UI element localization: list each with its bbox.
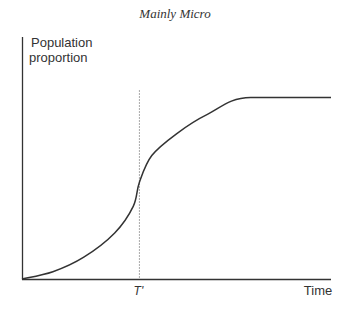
population-curve — [22, 98, 331, 280]
chart-title: Mainly Micro — [138, 6, 211, 21]
t-prime-label: T' — [134, 284, 144, 298]
y-axis-label-line-1: Population — [31, 35, 92, 50]
y-axis-label-line-2: proportion — [29, 50, 88, 65]
chart: Mainly Micro Population proportion T' Ti… — [0, 0, 351, 317]
x-axis-label: Time — [304, 283, 332, 298]
